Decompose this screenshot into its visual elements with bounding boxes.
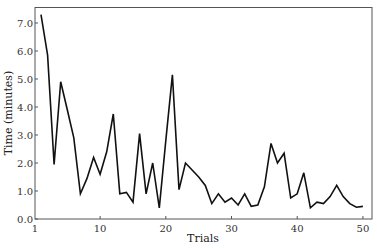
y-tick-label: 0.0 xyxy=(17,214,33,225)
y-tick-label: 1.0 xyxy=(17,186,33,197)
data-line-time xyxy=(41,15,363,208)
y-axis-title: Time (minutes) xyxy=(2,71,15,156)
x-tick-label: 50 xyxy=(357,223,370,234)
x-tick-label: 30 xyxy=(225,223,238,234)
x-tick-label: 20 xyxy=(159,223,172,234)
y-tick-label: 3.0 xyxy=(17,130,33,141)
x-tick-label: 10 xyxy=(94,223,107,234)
x-axis-title: Trials xyxy=(187,232,219,245)
plot-frame xyxy=(35,8,372,220)
y-tick-label: 2.0 xyxy=(17,158,33,169)
y-tick-label: 7.0 xyxy=(17,18,33,29)
y-tick-label: 4.0 xyxy=(17,102,33,113)
x-tick-label: 1 xyxy=(32,223,38,234)
line-chart: 0.01.02.03.04.05.06.07.0 11020304050 Tri… xyxy=(0,0,377,248)
y-tick-label: 6.0 xyxy=(17,46,33,57)
x-tick-label: 40 xyxy=(291,223,304,234)
y-tick-label: 5.0 xyxy=(17,74,33,85)
